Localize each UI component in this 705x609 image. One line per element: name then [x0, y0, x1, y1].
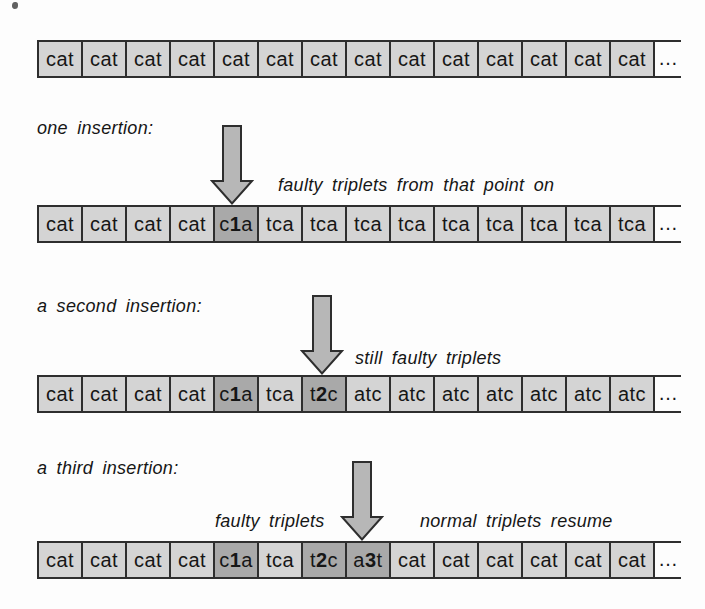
triplet-cell-inserted: c1a [215, 543, 259, 577]
annotation-faulty-from-point: faulty triplets from that point on [278, 176, 554, 195]
insertion-arrow-1 [209, 125, 255, 205]
triplet-cell: cat [347, 42, 391, 76]
triplet-cell-inserted: t2c [303, 377, 347, 411]
triplet-cell: cat [127, 543, 171, 577]
inserted-base: 2 [316, 549, 328, 571]
triplet-cell: cat [567, 42, 611, 76]
label-one-insertion: one insertion: [37, 119, 153, 138]
triplet-cell: cat [171, 42, 215, 76]
triplet-cell: cat [435, 42, 479, 76]
triplet-cell: cat [39, 207, 83, 241]
triplet-cell: cat [435, 543, 479, 577]
triplet-cell: cat [523, 42, 567, 76]
ellipsis-cell: … [655, 207, 681, 241]
triplet-cell: tca [479, 207, 523, 241]
triplet-cell: cat [259, 42, 303, 76]
ellipsis-cell: … [655, 42, 681, 76]
triplet-cell: cat [391, 543, 435, 577]
triplet-cell: cat [83, 207, 127, 241]
triplet-cell: tca [259, 377, 303, 411]
ellipsis-cell: … [655, 377, 681, 411]
triplet-cell: tca [347, 207, 391, 241]
triplet-cell: cat [303, 42, 347, 76]
triplet-cell: tca [567, 207, 611, 241]
triplet-strip-second-insertion: catcatcatcatc1atcat2catcatcatcatcatcatca… [37, 375, 681, 413]
triplet-cell: cat [39, 42, 83, 76]
triplet-cell: cat [215, 42, 259, 76]
triplet-cell: cat [83, 543, 127, 577]
triplet-cell-inserted: a3t [347, 543, 391, 577]
triplet-cell: tca [303, 207, 347, 241]
annotation-still-faulty: still faulty triplets [355, 349, 501, 368]
triplet-strip-third-insertion: catcatcatcatc1atcat2ca3tcatcatcatcatcatc… [37, 541, 681, 579]
triplet-cell: cat [171, 377, 215, 411]
triplet-cell: tca [259, 207, 303, 241]
triplet-cell: cat [611, 543, 655, 577]
triplet-cell: tca [435, 207, 479, 241]
inserted-base: 2 [316, 383, 328, 405]
triplet-cell: cat [83, 377, 127, 411]
triplet-cell: cat [391, 42, 435, 76]
label-third-insertion: a third insertion: [37, 459, 178, 478]
triplet-cell: cat [479, 543, 523, 577]
triplet-cell: cat [127, 42, 171, 76]
annotation-normal-resume: normal triplets resume [420, 512, 613, 531]
triplet-cell: tca [611, 207, 655, 241]
frameshift-mutation-diagram: catcatcatcatcatcatcatcatcatcatcatcatcatc… [0, 0, 705, 609]
triplet-cell: tca [523, 207, 567, 241]
triplet-cell: atc [567, 377, 611, 411]
inserted-base: 1 [230, 549, 242, 571]
triplet-cell: cat [567, 543, 611, 577]
insertion-arrow-3 [339, 461, 385, 541]
ellipsis-cell: … [655, 543, 681, 577]
triplet-cell: cat [611, 42, 655, 76]
scan-speck [12, 2, 18, 9]
triplet-cell: atc [611, 377, 655, 411]
triplet-cell-inserted: t2c [303, 543, 347, 577]
triplet-cell: cat [171, 543, 215, 577]
triplet-cell: cat [523, 543, 567, 577]
triplet-cell: cat [39, 377, 83, 411]
inserted-base: 1 [230, 213, 242, 235]
triplet-cell: tca [391, 207, 435, 241]
label-second-insertion: a second insertion: [37, 297, 202, 316]
triplet-cell: cat [127, 377, 171, 411]
triplet-cell: cat [39, 543, 83, 577]
triplet-cell: atc [523, 377, 567, 411]
triplet-strip-normal: catcatcatcatcatcatcatcatcatcatcatcatcatc… [37, 40, 681, 78]
triplet-cell-inserted: c1a [215, 207, 259, 241]
triplet-cell: cat [171, 207, 215, 241]
triplet-cell: tca [259, 543, 303, 577]
triplet-cell: atc [479, 377, 523, 411]
triplet-cell: cat [479, 42, 523, 76]
insertion-arrow-2 [299, 295, 345, 375]
triplet-cell: cat [83, 42, 127, 76]
annotation-faulty-triplets: faulty triplets [215, 512, 325, 531]
triplet-cell: atc [391, 377, 435, 411]
triplet-cell: atc [435, 377, 479, 411]
triplet-cell-inserted: c1a [215, 377, 259, 411]
inserted-base: 1 [230, 383, 242, 405]
triplet-cell: cat [127, 207, 171, 241]
triplet-cell: atc [347, 377, 391, 411]
triplet-strip-one-insertion: catcatcatcatc1atcatcatcatcatcatcatcatcat… [37, 205, 681, 243]
inserted-base: 3 [365, 549, 377, 571]
